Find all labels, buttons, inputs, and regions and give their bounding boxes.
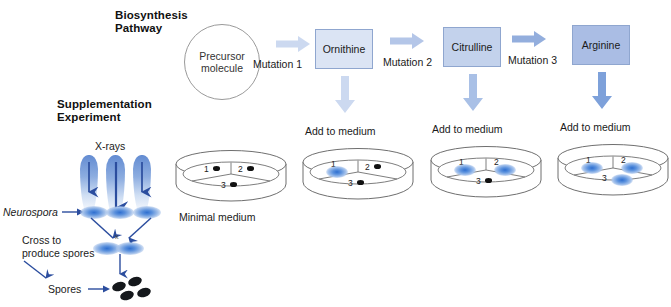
dish-sector-3-no-growth-dot xyxy=(357,180,364,185)
dish-sector-1-growth xyxy=(454,164,476,176)
dish-sector-number-3: 3 xyxy=(348,178,353,188)
arrow-diagonal-icon xyxy=(22,259,56,285)
arrow-down-icon xyxy=(463,74,483,112)
spores-label: Spores xyxy=(48,283,81,295)
supplementation-experiment-title: Supplementation Experiment xyxy=(57,98,152,124)
precursor-molecule-node: Precursor molecule xyxy=(184,24,260,100)
dish-sector-number-2: 2 xyxy=(365,162,370,172)
cross-to-produce-spores-label: Cross to produce spores xyxy=(22,234,94,259)
arrow-right-icon xyxy=(88,283,110,295)
petri-dish-minimal-medium[interactable]: 1 2 3 xyxy=(173,150,289,208)
metabolite-box-arginine: Arginine xyxy=(572,25,630,65)
arrow-down-icon xyxy=(335,76,355,114)
petri-dish-arginine[interactable]: 1 2 3 xyxy=(555,144,671,202)
spores-pointer-arrow xyxy=(88,283,110,295)
spore-4 xyxy=(136,286,152,299)
supplement-down-arrow-3 xyxy=(592,72,612,110)
cross-x-symbol: x xyxy=(115,233,119,240)
petri-dish-ornithine[interactable]: 1 2 3 xyxy=(300,148,416,206)
arrow-right-icon xyxy=(276,36,312,52)
precursor-molecule-label: Precursor molecule xyxy=(199,50,245,75)
biosynthesis-pathway-title: Biosynthesis Pathway xyxy=(115,9,188,35)
mutation-2-label: Mutation 2 xyxy=(383,56,432,68)
dish-sector-2-growth xyxy=(494,164,516,176)
metabolite-label-arginine: Arginine xyxy=(582,39,621,51)
metabolite-box-citrulline: Citrulline xyxy=(443,27,501,67)
mutation-1-label: Mutation 1 xyxy=(253,58,302,70)
cross-label-pointer-arrow xyxy=(22,259,56,285)
dish-sector-1-growth xyxy=(326,166,348,178)
metabolite-label-citrulline: Citrulline xyxy=(452,41,493,53)
arrow-down-icon xyxy=(113,254,127,282)
petri-dish-shape xyxy=(300,148,416,206)
dish-sector-3-no-growth-dot xyxy=(485,178,492,183)
petri-dish-shape xyxy=(173,150,289,208)
spore-2 xyxy=(127,275,143,288)
supplement-down-arrow-2 xyxy=(463,74,483,112)
dish-sector-3-growth xyxy=(611,174,633,186)
pathway-arrow-3 xyxy=(512,31,548,47)
dish-sector-number-3: 3 xyxy=(602,173,607,183)
dish-caption-arginine: Add to medium xyxy=(560,121,631,133)
arrow-down-icon xyxy=(592,72,612,110)
dish-sector-1-no-growth-dot xyxy=(213,166,220,171)
dish-sector-3-no-growth-dot xyxy=(230,182,237,187)
petri-dish-shape xyxy=(555,144,671,202)
dish-sector-number-3: 3 xyxy=(476,176,481,186)
petri-dish-citrulline[interactable]: 1 2 3 xyxy=(428,146,544,204)
supplement-down-arrow-1 xyxy=(335,76,355,114)
dish-sector-2-growth xyxy=(621,162,643,174)
spore-3 xyxy=(119,289,135,302)
metabolite-box-ornithine: Ornithine xyxy=(315,29,373,69)
minimal-medium-caption: Minimal medium xyxy=(179,211,255,223)
metabolite-label-ornithine: Ornithine xyxy=(323,43,366,55)
arrow-right-icon xyxy=(390,33,426,49)
dish-caption-ornithine: Add to medium xyxy=(305,125,376,137)
mutation-3-label: Mutation 3 xyxy=(508,54,557,66)
petri-dish-shape xyxy=(428,146,544,204)
dish-sector-2-no-growth-dot xyxy=(374,164,381,169)
dish-sector-number-2: 2 xyxy=(238,164,243,174)
dish-sector-number-1: 1 xyxy=(204,164,209,174)
xrays-label: X-rays xyxy=(95,140,125,152)
dish-caption-citrulline: Add to medium xyxy=(432,123,503,135)
dish-sector-2-no-growth-dot xyxy=(247,166,254,171)
dish-sector-number-3: 3 xyxy=(221,180,226,190)
dish-sector-1-growth xyxy=(581,162,603,174)
arrow-right-icon xyxy=(512,31,548,47)
pathway-arrow-1 xyxy=(276,36,312,52)
pathway-arrow-2 xyxy=(390,33,426,49)
spores-down-arrow xyxy=(113,254,127,282)
neurospora-label: Neurospora xyxy=(3,206,58,218)
